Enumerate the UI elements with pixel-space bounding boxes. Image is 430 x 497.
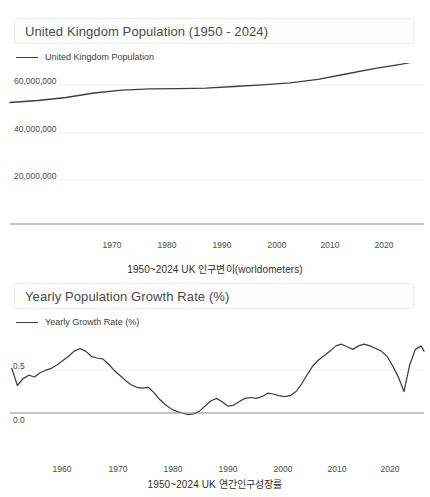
population-xtick-1990: 1990 bbox=[213, 240, 232, 250]
growth-xtick-1970: 1970 bbox=[109, 464, 128, 474]
clipped-top-text-label: ··· ···· ·· ····· ··· bbox=[68, 0, 147, 3]
growth-chart-block: Yearly Population Growth Rate (%) Yearly… bbox=[0, 283, 430, 480]
population-ytick-40m: 40,000,000 bbox=[14, 124, 57, 134]
growth-xtick-1990: 1990 bbox=[219, 464, 238, 474]
legend-line-icon bbox=[16, 57, 38, 58]
population-line-svg bbox=[0, 63, 430, 238]
growth-xtick-1980: 1980 bbox=[164, 464, 183, 474]
growth-line-svg bbox=[0, 328, 430, 460]
growth-chart-title: Yearly Population Growth Rate (%) bbox=[14, 283, 414, 309]
growth-ytick-0p0: 0.0 bbox=[13, 415, 25, 425]
legend-line-icon bbox=[16, 322, 38, 323]
growth-chart-legend[interactable]: Yearly Growth Rate (%) bbox=[16, 316, 430, 328]
population-plot-area: 60,000,000 40,000,000 20,000,000 bbox=[0, 63, 430, 238]
growth-xtick-2000: 2000 bbox=[274, 464, 293, 474]
population-xtick-1970: 1970 bbox=[103, 240, 122, 250]
population-caption: 1950~2024 UK 인구변이(worldometers) bbox=[0, 261, 430, 276]
population-ytick-20m: 20,000,000 bbox=[14, 171, 57, 181]
population-xtick-2000: 2000 bbox=[268, 240, 287, 250]
population-xtick-2020: 2020 bbox=[375, 240, 394, 250]
growth-legend-label: Yearly Growth Rate (%) bbox=[45, 317, 139, 327]
population-chart-block: United Kingdom Population (1950 - 2024) … bbox=[0, 18, 430, 260]
population-ytick-60m: 60,000,000 bbox=[14, 76, 57, 86]
growth-xtick-1960: 1960 bbox=[53, 464, 72, 474]
clipped-top-text: ··· ···· ·· ····· ··· bbox=[0, 0, 430, 9]
growth-series-line bbox=[12, 344, 424, 415]
growth-caption: 1950~2024 UK 연간인구성장률 bbox=[0, 476, 430, 491]
population-xtick-2010: 2010 bbox=[321, 240, 340, 250]
population-xtick-1980: 1980 bbox=[158, 240, 177, 250]
growth-ytick-0p5: 0.5 bbox=[13, 361, 25, 371]
population-x-axis-labels: 1970 1980 1990 2000 2010 2020 bbox=[0, 238, 430, 260]
population-chart-title: United Kingdom Population (1950 - 2024) bbox=[14, 18, 414, 44]
population-chart-legend[interactable]: United Kingdom Population bbox=[16, 51, 430, 63]
population-legend-label: United Kingdom Population bbox=[45, 52, 154, 62]
growth-xtick-2020: 2020 bbox=[381, 464, 400, 474]
population-series-line bbox=[10, 63, 424, 103]
growth-plot-area: 0.5 0.0 bbox=[0, 328, 430, 460]
growth-xtick-2010: 2010 bbox=[328, 464, 347, 474]
